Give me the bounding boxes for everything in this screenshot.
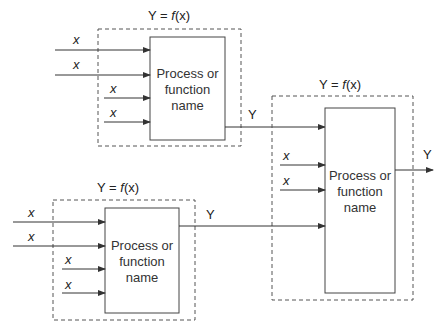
input-label: x xyxy=(73,32,80,47)
process-label-line: Process or xyxy=(329,168,391,184)
input-label: x xyxy=(110,81,117,96)
process-label-line: function xyxy=(119,254,165,270)
process-label-line: name xyxy=(126,270,159,286)
input-label: x xyxy=(65,277,72,292)
process-label-line: Process or xyxy=(111,238,173,254)
output-label: Y xyxy=(206,207,215,222)
input-label: x xyxy=(110,105,117,120)
input-label: x xyxy=(283,148,290,163)
title-suffix: (x) xyxy=(124,180,139,195)
input-label: x xyxy=(283,173,290,188)
output-label: Y xyxy=(423,147,432,162)
process-label-line: function xyxy=(337,184,383,200)
input-label: x xyxy=(73,57,80,72)
process-label-line: Process or xyxy=(156,66,218,82)
process-label-line: name xyxy=(344,200,377,216)
process-label-line: name xyxy=(171,98,204,114)
block-title-top-left: Y = f(x) xyxy=(148,8,190,23)
process-label-bottom-left: Process or function name xyxy=(105,238,179,286)
input-label: x xyxy=(28,205,35,220)
process-label-line: function xyxy=(165,82,211,98)
input-label: x xyxy=(28,229,35,244)
process-label-top-left: Process or function name xyxy=(150,66,225,114)
title-prefix: Y = xyxy=(319,77,342,92)
process-label-right: Process or function name xyxy=(325,168,395,216)
block-title-bottom-left: Y = f(x) xyxy=(97,180,139,195)
input-label: x xyxy=(65,252,72,267)
title-suffix: (x) xyxy=(346,77,361,92)
title-prefix: Y = xyxy=(148,8,171,23)
title-prefix: Y = xyxy=(97,180,120,195)
title-suffix: (x) xyxy=(175,8,190,23)
output-label: Y xyxy=(248,107,257,122)
block-title-right: Y = f(x) xyxy=(319,77,361,92)
